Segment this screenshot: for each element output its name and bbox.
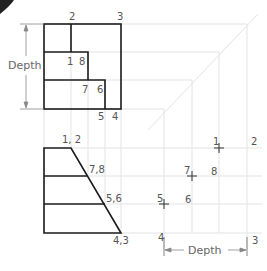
side-depth-label: Depth xyxy=(188,244,222,257)
front-view-point-label: 4,3 xyxy=(113,235,129,246)
side-view-point-label: 6 xyxy=(185,194,191,205)
top-view-point-label: 2 xyxy=(69,11,75,22)
top-view-point-label: 8 xyxy=(79,56,85,67)
construction-lines xyxy=(44,14,262,250)
side-view-point-label: 4 xyxy=(158,232,164,243)
side-view-point-label: 8 xyxy=(211,166,217,177)
side-view-point-label: 7 xyxy=(184,165,190,176)
top-view-point-label: 1 xyxy=(67,56,73,67)
side-view-point-label: 1 xyxy=(213,136,219,147)
top-depth-label: Depth xyxy=(8,59,42,72)
top-view-point-label: 5 xyxy=(98,111,104,122)
top-view-point-label: 4 xyxy=(112,111,118,122)
side-view-point-label: 5 xyxy=(157,193,163,204)
point-labels: 231876541, 27,85,64,312785643 xyxy=(62,11,258,246)
corner-mark xyxy=(0,0,14,14)
top-view-point-label: 3 xyxy=(117,11,123,22)
side-view-point-label: 3 xyxy=(252,235,258,246)
projection-diagram: Depth Depth 231876541, 27,85,64,31278564… xyxy=(0,0,267,271)
front-view-point-label: 1, 2 xyxy=(62,134,81,145)
front-view-point-label: 7,8 xyxy=(89,164,105,175)
top-view-point-label: 6 xyxy=(97,84,103,95)
side-view-point-label: 2 xyxy=(251,136,257,147)
front-view xyxy=(44,148,121,233)
top-view-point-label: 7 xyxy=(82,84,88,95)
front-view-point-label: 5,6 xyxy=(106,193,122,204)
